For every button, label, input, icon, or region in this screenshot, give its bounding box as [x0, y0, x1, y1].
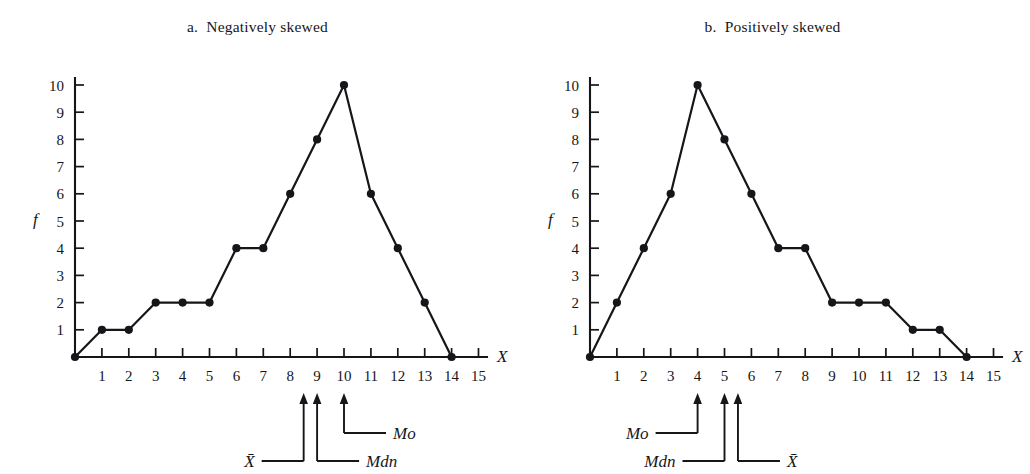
y-tick-label: 4	[572, 241, 580, 257]
x-tick-label: 3	[667, 368, 675, 384]
x-tick-label: 1	[98, 368, 106, 384]
data-point-markers	[586, 81, 971, 361]
statistic-annotations: MoMdnX̄	[625, 393, 798, 471]
data-point	[232, 244, 240, 252]
data-point	[774, 244, 782, 252]
x-axis-label: X	[496, 347, 508, 366]
y-tick-label: 10	[49, 78, 64, 94]
data-point	[882, 299, 890, 307]
data-point	[313, 135, 321, 143]
y-tick-label: 7	[57, 159, 65, 175]
x-tick-label: 3	[152, 368, 160, 384]
x-tick-label: 8	[801, 368, 809, 384]
y-axis-ticks	[75, 85, 84, 330]
y-tick-label: 9	[572, 105, 580, 121]
x-axis-tick-labels: 123456789101112131415	[613, 368, 1001, 384]
data-point	[586, 353, 594, 361]
data-point	[667, 190, 675, 198]
annotation-arrowhead	[313, 393, 322, 404]
data-point	[720, 135, 728, 143]
x-tick-label: 14	[444, 368, 460, 384]
x-tick-label: 12	[390, 368, 405, 384]
y-tick-label: 3	[572, 268, 580, 284]
y-tick-label: 10	[564, 78, 579, 94]
y-tick-label: 9	[57, 105, 65, 121]
y-tick-label: 2	[57, 295, 65, 311]
x-tick-label: 9	[313, 368, 321, 384]
x-tick-label: 15	[471, 368, 486, 384]
x-tick-label: 1	[613, 368, 621, 384]
data-point	[448, 353, 456, 361]
y-axis-tick-labels: 12345678910	[49, 78, 65, 339]
data-point	[855, 299, 863, 307]
x-tick-label: 9	[828, 368, 836, 384]
annotation-arrowhead	[720, 393, 729, 404]
annotation-arrowhead	[340, 393, 349, 404]
data-point	[71, 353, 79, 361]
x-tick-label: 4	[179, 368, 187, 384]
x-axis-ticks	[617, 348, 994, 357]
data-point	[613, 299, 621, 307]
y-tick-label: 5	[572, 214, 580, 230]
x-tick-label: 10	[337, 368, 352, 384]
panel-b-plot: 12345678910 123456789101112131415 f X Mo…	[515, 0, 1030, 474]
y-tick-label: 8	[57, 132, 65, 148]
y-tick-label: 1	[57, 322, 65, 338]
frequency-polygon	[75, 85, 452, 357]
y-tick-label: 8	[572, 132, 580, 148]
panel-a-plot: 12345678910 123456789101112131415 f X X̄…	[0, 0, 515, 474]
annotation-label: Mdn	[643, 452, 675, 471]
figure-root: a. Negatively skewed 12345678910 1234567…	[0, 0, 1030, 474]
data-point	[152, 299, 160, 307]
annotation-label: X̄	[243, 452, 255, 471]
data-point	[125, 326, 133, 334]
x-tick-label: 6	[748, 368, 756, 384]
data-point	[205, 299, 213, 307]
data-point	[828, 299, 836, 307]
y-axis-tick-labels: 12345678910	[564, 78, 580, 339]
data-point	[179, 299, 187, 307]
x-tick-label: 11	[364, 368, 378, 384]
data-point	[421, 299, 429, 307]
data-point	[801, 244, 809, 252]
y-axis-label: f	[548, 210, 555, 229]
x-tick-label: 10	[852, 368, 867, 384]
data-point	[259, 244, 267, 252]
data-point	[286, 190, 294, 198]
y-tick-label: 6	[572, 186, 580, 202]
y-tick-label: 1	[572, 322, 580, 338]
x-tick-label: 13	[417, 368, 432, 384]
data-point-markers	[71, 81, 456, 361]
data-point	[747, 190, 755, 198]
x-tick-label: 4	[694, 368, 702, 384]
x-tick-label: 14	[959, 368, 975, 384]
x-tick-label: 7	[260, 368, 268, 384]
x-tick-label: 2	[640, 368, 648, 384]
data-point	[936, 326, 944, 334]
annotation-label: Mo	[625, 424, 649, 443]
y-axis-ticks	[590, 85, 599, 330]
y-tick-label: 5	[57, 214, 65, 230]
x-tick-label: 2	[125, 368, 133, 384]
data-point	[694, 81, 702, 89]
y-tick-label: 3	[57, 268, 65, 284]
data-point	[367, 190, 375, 198]
data-point	[340, 81, 348, 89]
data-point	[640, 244, 648, 252]
x-axis-tick-labels: 123456789101112131415	[98, 368, 486, 384]
y-tick-label: 6	[57, 186, 65, 202]
panel-a-axes	[75, 78, 487, 357]
y-tick-label: 2	[572, 295, 580, 311]
x-tick-label: 5	[206, 368, 214, 384]
panel-positively-skewed: b. Positively skewed 12345678910 1234567…	[515, 0, 1030, 474]
x-tick-label: 5	[721, 368, 729, 384]
y-tick-label: 7	[572, 159, 580, 175]
x-axis-ticks	[102, 348, 479, 357]
annotation-arrowhead	[734, 393, 743, 404]
data-point	[909, 326, 917, 334]
x-tick-label: 7	[775, 368, 783, 384]
statistic-annotations: X̄MdnMo	[243, 393, 415, 471]
x-tick-label: 15	[986, 368, 1001, 384]
frequency-polygon	[590, 85, 967, 357]
panel-negatively-skewed: a. Negatively skewed 12345678910 1234567…	[0, 0, 515, 474]
